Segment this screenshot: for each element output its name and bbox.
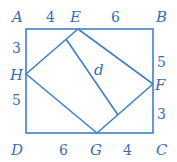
length-fc: 3 (157, 106, 166, 122)
square-abcd (26, 29, 153, 133)
segment-ef (78, 29, 153, 84)
label-a: A (10, 8, 23, 26)
label-d: D (10, 141, 23, 159)
segment-d (66, 39, 118, 115)
label-b: B (155, 8, 167, 26)
label-f: F (154, 76, 166, 94)
label-e: E (69, 8, 81, 26)
length-hd: 5 (12, 92, 21, 108)
label-segment-d: d (94, 61, 104, 79)
length-bf: 5 (157, 54, 166, 70)
length-eb: 6 (111, 9, 120, 25)
length-ah: 3 (12, 40, 21, 56)
segment-hg (26, 74, 97, 133)
label-c: C (156, 141, 168, 159)
length-dg: 6 (59, 142, 68, 158)
geometry-diagram: A B C D E F G H d 4 6 3 5 5 3 6 4 (0, 0, 177, 162)
length-ae: 4 (46, 9, 55, 25)
label-h: H (9, 66, 24, 84)
segment-gf (97, 84, 153, 133)
length-gc: 4 (123, 142, 132, 158)
segment-eh (26, 29, 78, 74)
label-g: G (90, 141, 102, 159)
